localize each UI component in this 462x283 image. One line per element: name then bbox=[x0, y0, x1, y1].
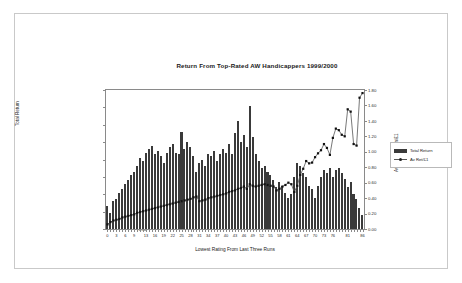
chart-window-border: Return From Top-Rated AW Handicappers 19… bbox=[14, 13, 448, 269]
x-axis-tick-mark bbox=[247, 230, 248, 232]
line-marker bbox=[249, 183, 251, 185]
x-axis-tick-mark bbox=[330, 230, 331, 232]
x-axis-tick-mark bbox=[182, 230, 183, 232]
line-marker bbox=[358, 97, 360, 99]
line-marker bbox=[267, 184, 269, 186]
x-axis-tick-mark bbox=[348, 230, 349, 232]
line-marker bbox=[275, 189, 277, 191]
x-axis-tick-mark bbox=[149, 230, 150, 232]
x-axis-tick-mark bbox=[363, 230, 364, 232]
line-marker bbox=[329, 154, 331, 156]
line-marker bbox=[195, 195, 197, 197]
line-marker bbox=[109, 221, 111, 223]
line-marker bbox=[201, 199, 203, 201]
x-axis-tick-mark bbox=[232, 230, 233, 232]
line-series-av-ret bbox=[106, 90, 364, 229]
line-marker bbox=[219, 194, 221, 196]
line-marker bbox=[281, 185, 283, 187]
x-axis-tick-mark bbox=[238, 230, 239, 232]
line-marker bbox=[118, 218, 120, 220]
x-axis-tick-mark bbox=[202, 230, 203, 232]
line-marker bbox=[299, 174, 301, 176]
line-marker bbox=[308, 162, 310, 164]
chart-title: Return From Top-Rated AW Handicappers 19… bbox=[57, 62, 457, 69]
line-marker bbox=[234, 189, 236, 191]
line-marker bbox=[178, 201, 180, 203]
line-marker bbox=[166, 204, 168, 206]
x-axis-tick-mark bbox=[282, 230, 283, 232]
line-marker bbox=[278, 188, 280, 190]
legend-bar-swatch-icon bbox=[394, 149, 407, 153]
x-axis-tick-label: 76 bbox=[328, 233, 338, 238]
line-marker bbox=[127, 215, 129, 217]
line-marker bbox=[344, 135, 346, 137]
x-axis-tick-mark bbox=[259, 230, 260, 232]
x-axis-tick-mark bbox=[179, 230, 180, 232]
y-axis-right-tick-label: 0.40 bbox=[368, 196, 398, 201]
x-axis-tick-mark bbox=[173, 230, 174, 232]
line-marker bbox=[237, 188, 239, 190]
line-marker bbox=[151, 208, 153, 210]
line-marker bbox=[252, 185, 254, 187]
line-marker bbox=[323, 143, 325, 145]
line-marker bbox=[335, 128, 337, 130]
x-axis-tick-mark bbox=[354, 230, 355, 232]
line-marker bbox=[293, 191, 295, 193]
line-marker bbox=[326, 147, 328, 149]
line-marker bbox=[261, 184, 263, 186]
line-marker bbox=[240, 187, 242, 189]
line-marker bbox=[225, 192, 227, 194]
line-marker bbox=[124, 216, 126, 218]
line-marker bbox=[175, 202, 177, 204]
line-marker bbox=[142, 210, 144, 212]
x-axis-tick-mark bbox=[146, 230, 147, 232]
line-marker bbox=[287, 182, 289, 184]
line-marker bbox=[347, 108, 349, 110]
x-axis-tick-mark bbox=[125, 230, 126, 232]
x-axis-tick-mark bbox=[122, 230, 123, 232]
line-marker bbox=[305, 160, 307, 162]
x-axis-tick-mark bbox=[312, 230, 313, 232]
x-axis-tick-mark bbox=[188, 230, 189, 232]
x-axis-tick-mark bbox=[291, 230, 292, 232]
x-axis-tick-mark bbox=[324, 230, 325, 232]
x-axis-tick-mark bbox=[265, 230, 266, 232]
x-axis-tick-mark bbox=[158, 230, 159, 232]
line-marker bbox=[332, 137, 334, 139]
x-axis-tick-mark bbox=[193, 230, 194, 232]
x-axis-tick-mark bbox=[205, 230, 206, 232]
x-axis-tick-label: 86 bbox=[358, 233, 368, 238]
line-marker bbox=[353, 143, 355, 145]
line-marker bbox=[213, 195, 215, 197]
line-marker bbox=[160, 206, 162, 208]
x-axis-tick-mark bbox=[268, 230, 269, 232]
y-axis-right-tick-mark bbox=[365, 229, 367, 230]
y-axis-right-tick-label: 0.00 bbox=[368, 227, 398, 232]
line-marker bbox=[136, 212, 138, 214]
line-marker bbox=[361, 92, 363, 94]
line-marker bbox=[311, 161, 313, 163]
x-axis-tick-mark bbox=[211, 230, 212, 232]
line-marker bbox=[133, 213, 135, 215]
plot-inner bbox=[106, 90, 364, 229]
y-axis-right-tick-mark bbox=[365, 121, 367, 122]
x-axis-tick-mark bbox=[176, 230, 177, 232]
x-axis-tick-mark bbox=[191, 230, 192, 232]
x-axis-tick-mark bbox=[309, 230, 310, 232]
line-marker bbox=[258, 185, 260, 187]
x-axis-tick-mark bbox=[214, 230, 215, 232]
x-axis-tick-mark bbox=[128, 230, 129, 232]
x-axis-tick-mark bbox=[321, 230, 322, 232]
y-axis-right-tick-label: 1.20 bbox=[368, 134, 398, 139]
x-axis-tick-mark bbox=[303, 230, 304, 232]
y-axis-right-tick-mark bbox=[365, 90, 367, 91]
x-axis-tick-mark bbox=[226, 230, 227, 232]
x-axis-tick-mark bbox=[167, 230, 168, 232]
x-axis-tick-mark bbox=[119, 230, 120, 232]
y-axis-right-tick-label: 1.80 bbox=[368, 88, 398, 93]
x-axis-tick-mark bbox=[223, 230, 224, 232]
line-marker bbox=[243, 185, 245, 187]
line-marker bbox=[157, 206, 159, 208]
screenshot-frame: Return From Top-Rated AW Handicappers 19… bbox=[0, 0, 462, 283]
y-axis-right-tick-label: 0.60 bbox=[368, 180, 398, 185]
